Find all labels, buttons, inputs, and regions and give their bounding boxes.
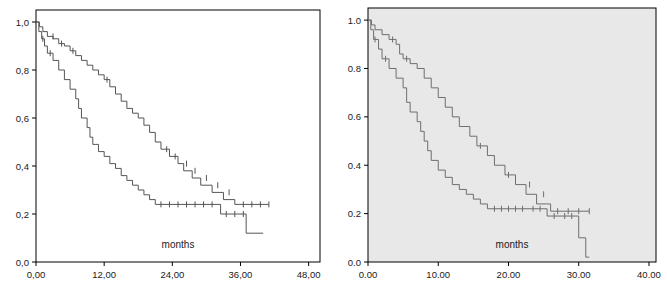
x-axis-tick-label: 48,00 (297, 269, 321, 280)
x-axis-tick-label: 40.00 (637, 269, 661, 280)
y-axis-tick-label: 0,0 (16, 257, 29, 268)
plot-area-background (36, 10, 320, 262)
chart-panel-right: 0.00.20.40.60.81.00.0010.0020.0030.0040.… (334, 0, 667, 294)
x-axis-tick-label: 36,00 (229, 269, 253, 280)
y-axis-tick-label: 0,4 (16, 161, 29, 172)
x-axis-title: months (496, 239, 529, 250)
figure-root: 0,00,20,40,60,81,00,0012,0024,0036,0048,… (0, 0, 667, 294)
x-axis-tick-label: 10.00 (426, 269, 450, 280)
y-axis-tick-label: 0,2 (16, 209, 29, 220)
y-axis-tick-label: 0.0 (348, 257, 361, 268)
y-axis-tick-label: 1,0 (16, 17, 29, 28)
y-axis-tick-label: 0.2 (348, 208, 361, 219)
survival-plot-right: 0.00.20.40.60.81.00.0010.0020.0030.0040.… (334, 0, 667, 294)
y-axis-tick-label: 0,6 (16, 113, 29, 124)
x-axis-tick-label: 12,00 (92, 269, 116, 280)
x-axis-tick-label: 30.00 (567, 269, 591, 280)
y-axis-tick-label: 0.6 (348, 111, 361, 122)
x-axis-tick-label: 20.00 (497, 269, 521, 280)
x-axis-tick-label: 0,00 (27, 269, 46, 280)
y-axis-tick-label: 1.0 (348, 15, 361, 26)
plot-area-background (368, 8, 656, 262)
y-axis-tick-label: 0,8 (16, 65, 29, 76)
x-axis-tick-label: 0.00 (359, 269, 378, 280)
y-axis-tick-label: 0.4 (348, 160, 361, 171)
x-axis-title: months (162, 239, 195, 250)
x-axis-tick-label: 24,00 (160, 269, 184, 280)
survival-plot-left: 0,00,20,40,60,81,00,0012,0024,0036,0048,… (0, 0, 333, 294)
y-axis-tick-label: 0.8 (348, 63, 361, 74)
chart-panel-left: 0,00,20,40,60,81,00,0012,0024,0036,0048,… (0, 0, 333, 294)
